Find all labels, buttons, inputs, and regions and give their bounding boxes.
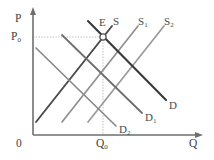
equilibrium-label: E — [99, 17, 106, 28]
demand-curve-D2 — [36, 48, 116, 126]
demand-label-sub-D2: 2 — [127, 129, 131, 137]
supply-curve-label-S2: S2 — [164, 16, 174, 27]
supply-curve-label-S: S — [113, 16, 119, 27]
demand-label-letter-D: D — [169, 99, 177, 111]
supply-curve-label-S1: S1 — [138, 16, 148, 27]
y-axis-arrow-icon — [30, 7, 36, 15]
supply-label-sub-S2: 2 — [170, 21, 174, 29]
demand-curve-label-D1: D1 — [145, 112, 156, 123]
price-level-subscript: 0 — [17, 36, 21, 44]
quantity-level-subscript: 0 — [104, 143, 108, 151]
origin-label: 0 — [16, 138, 22, 150]
demand-label-letter-D1: D — [145, 111, 153, 123]
supply-label-letter-S: S — [113, 15, 119, 27]
supply-demand-diagram: P Q 0 P0 Q0 E S S1 S2 D D1 D2 — [0, 0, 214, 160]
quantity-level-label: Q0 — [96, 138, 108, 150]
equilibrium-point-marker — [100, 34, 106, 40]
y-axis-label: P — [15, 13, 21, 25]
demand-label-letter-D2: D — [119, 123, 127, 135]
supply-label-sub-S1: 1 — [144, 21, 148, 29]
demand-curve-D — [88, 21, 166, 100]
price-level-label: P0 — [11, 31, 21, 43]
x-axis-label: Q — [189, 138, 197, 150]
demand-label-sub-D1: 1 — [153, 117, 157, 125]
demand-curve-label-D: D — [169, 100, 177, 111]
demand-curve-label-D2: D2 — [119, 124, 130, 135]
diagram-canvas — [0, 0, 214, 160]
